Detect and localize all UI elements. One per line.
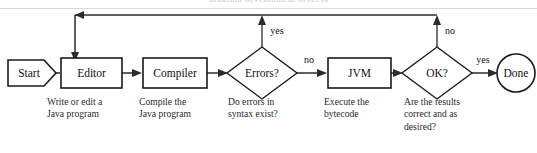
- ok-no-arrowhead: [433, 15, 441, 25]
- edge-label-ok-no: no: [445, 25, 455, 36]
- node-ok-label: OK?: [426, 67, 448, 79]
- edge-editor-compiler-arrowhead: [132, 69, 142, 77]
- node-start-label: Start: [18, 67, 41, 79]
- node-errors-label: Errors?: [245, 67, 279, 79]
- caption-jvm: Execute the bytecode: [324, 96, 410, 121]
- edge-errors-jvm-arrowhead: [317, 69, 327, 77]
- edge-label-errors-yes: yes: [270, 25, 283, 36]
- caption-editor: Write or edit a Java program: [47, 96, 133, 121]
- node-editor-label: Editor: [77, 67, 106, 79]
- caption-errors: Do errors in syntax exist?: [228, 96, 318, 121]
- node-jvm-label: JVM: [348, 67, 371, 79]
- caption-compiler: Compile the Java program: [139, 96, 225, 121]
- caption-ok: Are the results correct and as desired?: [404, 96, 500, 133]
- feedback-bus-arrowhead: [75, 11, 84, 19]
- errors-yes-arrowhead: [258, 15, 266, 25]
- edge-label-ok-yes: yes: [476, 54, 489, 65]
- flowchart-figure: program development process yes no no: [0, 0, 537, 153]
- node-done-label: Done: [504, 67, 529, 79]
- edge-label-errors-no: no: [304, 54, 314, 65]
- node-compiler-label: Compiler: [153, 67, 197, 80]
